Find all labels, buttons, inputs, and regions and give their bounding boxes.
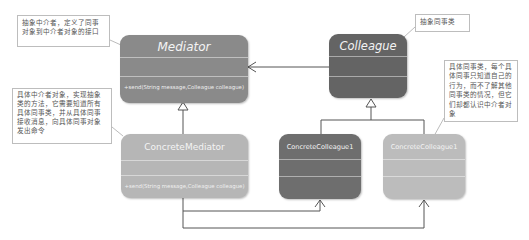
divider xyxy=(120,57,248,58)
class-name: ConcreteColleague1 xyxy=(279,143,361,151)
colleague-note-connector xyxy=(404,27,415,37)
association-line xyxy=(183,198,424,228)
hollow-triangle-icon xyxy=(178,102,188,110)
class-concrete-colleague-b[interactable]: ConcreteColleague1 xyxy=(383,134,465,199)
concrete-mediator-note-connector xyxy=(112,127,123,136)
divider xyxy=(279,176,361,177)
class-operation: +send(String message,Colleague colleague… xyxy=(120,84,248,90)
note-colleague: 抽象同事类 xyxy=(415,14,470,32)
divider xyxy=(329,76,407,77)
divider xyxy=(120,76,248,77)
divider xyxy=(121,175,248,176)
note-concrete-colleague: 具体同事类，每个具体同事只知道自己的行为，而不了解其他同事类的情况，但它们却都认… xyxy=(444,60,518,122)
divider xyxy=(383,176,465,177)
association-line xyxy=(183,200,320,211)
class-name: Colleague xyxy=(329,39,407,53)
note-mediator: 抽象中介者，定义了同事对象到中介者对象的接口 xyxy=(17,15,110,47)
generalization-line xyxy=(321,120,424,134)
divider xyxy=(121,160,248,161)
class-name: Mediator xyxy=(120,40,248,54)
class-colleague[interactable]: Colleague xyxy=(329,34,407,98)
class-concrete-mediator[interactable]: ConcreteMediator +send(String message,Co… xyxy=(121,134,248,198)
divider xyxy=(279,159,361,160)
class-name: ConcreteColleague1 xyxy=(383,143,465,151)
divider xyxy=(383,159,465,160)
class-name: ConcreteMediator xyxy=(121,142,248,152)
note-concrete-mediator: 具体中介者对象，实现抽象类的方法，它需要知道所有具体同事类，并从具体同事接收消息… xyxy=(12,88,112,144)
divider xyxy=(329,56,407,57)
class-mediator[interactable]: Mediator +send(String message,Colleague … xyxy=(120,35,248,103)
hollow-triangle-icon xyxy=(366,99,376,107)
class-concrete-colleague-a[interactable]: ConcreteColleague1 xyxy=(279,134,361,199)
class-operation: +send(String message,Colleague colleague… xyxy=(121,183,248,189)
